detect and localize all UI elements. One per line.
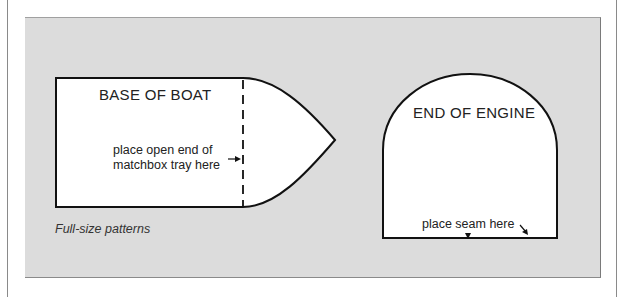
boat-note-line2: matchbox tray here bbox=[113, 158, 220, 172]
pattern-drawings bbox=[0, 0, 623, 297]
boat-note-line1: place open end of bbox=[113, 143, 212, 157]
engine-title: END OF ENGINE bbox=[413, 104, 535, 121]
boat-title: BASE OF BOAT bbox=[99, 86, 212, 103]
figure-caption: Full-size patterns bbox=[55, 222, 150, 236]
engine-end-pattern bbox=[383, 74, 557, 238]
engine-note: place seam here bbox=[422, 217, 514, 231]
